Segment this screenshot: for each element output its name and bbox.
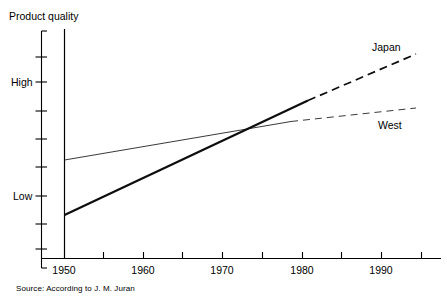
series-line-japan [65,54,417,215]
x-tick-label-1970: 1970 [210,264,233,276]
series-line-west [65,108,417,160]
source-note: Source: According to J. M. Juran [16,283,135,295]
x-tick-label-1950: 1950 [52,264,75,276]
y-axis [36,31,48,268]
x-axis [41,252,441,259]
y-axis-label-low: Low [13,190,32,202]
x-tick-label-1960: 1960 [131,264,154,276]
page-title: Product quality [9,10,78,22]
x-axis-ticks [104,252,422,259]
series-label-west: West [378,119,402,131]
product-quality-chart: Product quality High Low 1950 1960 1970 … [0,0,447,304]
x-tick-label-1990: 1990 [369,264,392,276]
y-axis-label-high: High [11,76,33,88]
x-tick-label-1980: 1980 [290,264,313,276]
series-label-japan: Japan [372,41,401,53]
